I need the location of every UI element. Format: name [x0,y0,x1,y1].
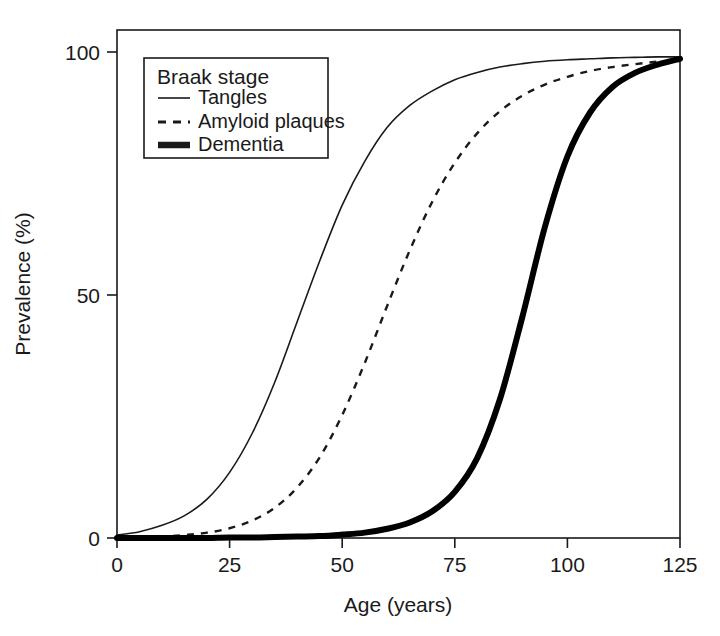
x-tick-label: 100 [550,553,585,576]
prevalence-line-chart: 0255075100125 050100 Age (years) Prevale… [0,0,720,636]
x-tick-label: 0 [111,553,123,576]
legend-title: Braak stage [157,65,269,88]
x-axis-title: Age (years) [344,593,453,616]
chart-legend: Braak stage TanglesAmyloid plaquesDement… [144,58,345,158]
x-tick-label: 50 [331,553,354,576]
legend-label: Tangles [198,86,267,108]
y-axis-ticks [107,52,117,538]
y-tick-label: 0 [88,527,100,550]
y-axis-tick-labels: 050100 [65,41,100,550]
legend-label: Dementia [198,133,284,155]
x-tick-label: 75 [443,553,466,576]
x-tick-label: 25 [218,553,241,576]
y-axis-title: Prevalence (%) [11,212,34,356]
y-tick-label: 100 [65,41,100,64]
x-tick-label: 125 [662,553,697,576]
legend-label: Amyloid plaques [198,110,345,132]
chart-figure: 0255075100125 050100 Age (years) Prevale… [0,0,720,636]
y-tick-label: 50 [77,284,100,307]
x-axis-tick-labels: 0255075100125 [111,553,697,576]
